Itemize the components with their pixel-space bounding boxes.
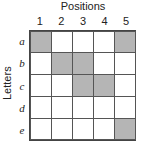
row-label: c	[16, 74, 28, 96]
grid-cell-e2	[51, 118, 73, 141]
row-labels: a b c d e	[16, 30, 28, 141]
column-label: 1	[29, 14, 51, 28]
grid-cell-b5	[114, 52, 136, 75]
grid-cell-e3	[72, 118, 94, 141]
column-label: 4	[94, 14, 116, 28]
grid-cell-d1	[30, 96, 52, 119]
grid-cell-e1	[30, 118, 52, 141]
grid-cell-e4	[93, 118, 115, 141]
grid-cell-c3	[72, 74, 94, 97]
row-label: a	[16, 30, 28, 52]
grid-cell-c5	[114, 74, 136, 97]
grid-cell-b2	[51, 52, 73, 75]
grid-cell-a3	[72, 31, 94, 54]
column-labels: 1 2 3 4 5	[29, 14, 137, 28]
grid-cell-e5	[114, 118, 136, 141]
row-label: e	[16, 119, 28, 141]
grid-cell-a4	[93, 31, 115, 54]
row-label: d	[16, 97, 28, 119]
grid-cell-b3	[72, 52, 94, 75]
grid-cell-d5	[114, 96, 136, 119]
column-label: 2	[51, 14, 73, 28]
grid-cell-d2	[51, 96, 73, 119]
letter-position-grid	[29, 30, 136, 141]
grid-cell-a5	[114, 31, 136, 54]
grid-cell-c2	[51, 74, 73, 97]
column-label: 3	[72, 14, 94, 28]
letters-axis-label: Letters	[1, 70, 13, 100]
grid-cell-a1	[30, 31, 52, 54]
positions-title: Positions	[29, 0, 137, 13]
grid-cell-c1	[30, 74, 52, 97]
grid-cell-b4	[93, 52, 115, 75]
grid-cell-c4	[93, 74, 115, 97]
grid-cell-d3	[72, 96, 94, 119]
grid-cell-d4	[93, 96, 115, 119]
row-label: b	[16, 52, 28, 74]
grid-cell-b1	[30, 52, 52, 75]
column-label: 5	[115, 14, 137, 28]
grid-cell-a2	[51, 31, 73, 54]
